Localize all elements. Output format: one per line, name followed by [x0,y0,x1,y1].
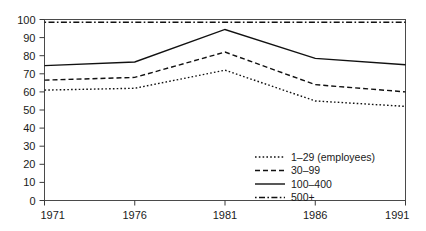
y-tick-label: 80 [23,50,35,62]
x-axis-ticks [45,201,406,206]
y-tick-label: 100 [17,14,35,26]
y-tick-label: 60 [23,86,35,98]
plot-frame [45,20,406,201]
y-tick-label: 50 [23,104,35,116]
chart-legend: 1–29 (employees)30–99100–400500+ [255,151,375,204]
x-tick-label: 1976 [123,209,147,221]
y-tick-label: 40 [23,122,35,134]
y-tick-label: 70 [23,68,35,80]
y-tick-label: 30 [23,140,35,152]
y-tick-label: 0 [29,195,35,207]
y-tick-label: 90 [23,32,35,44]
x-axis-tick-labels: 19711976198119861991 [41,209,410,221]
legend-item-label: 1–29 (employees) [291,151,375,163]
x-tick-label: 1971 [41,209,65,221]
legend-item-label: 500+ [291,191,315,203]
x-tick-label: 1986 [303,209,327,221]
y-axis-ticks [40,20,45,201]
x-tick-label: 1991 [385,209,409,221]
line-chart: 0102030405060708090100 19711976198119861… [0,0,426,231]
y-tick-label: 10 [23,176,35,188]
legend-item-label: 30–99 [291,164,320,176]
y-axis-tick-labels: 0102030405060708090100 [17,14,35,207]
series-line [45,70,406,106]
series-line [45,52,406,92]
series-line [45,29,406,65]
data-series-group [45,22,406,106]
y-tick-label: 20 [23,158,35,170]
x-tick-label: 1981 [213,209,237,221]
chart-canvas: 0102030405060708090100 19711976198119861… [0,0,426,231]
legend-item-label: 100–400 [291,178,332,190]
